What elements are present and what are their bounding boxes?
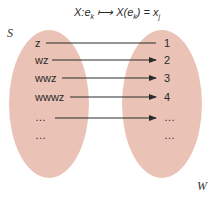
domain-item: wwz [34, 72, 56, 84]
codomain-item: 2 [164, 54, 170, 66]
codomain-item: 4 [164, 91, 170, 103]
domain-item: z [35, 37, 41, 49]
function-mapping-diagram: X:ek ⟼ X(ek) = xj S W z wz wwz wwwz … … … [0, 0, 217, 197]
codomain-item: 1 [164, 37, 170, 49]
codomain-set-label: W [197, 179, 208, 193]
domain-set-label: S [7, 26, 13, 40]
codomain-item: … [164, 111, 175, 123]
domain-item: wz [34, 54, 48, 66]
codomain-set-ellipse [122, 30, 202, 178]
mapping-title: X:ek ⟼ X(ek) = xj [73, 6, 160, 21]
domain-item: wwwz [34, 91, 64, 103]
codomain-item: … [164, 129, 175, 141]
domain-set-ellipse [9, 30, 89, 178]
domain-item: … [35, 129, 46, 141]
codomain-item: 3 [164, 72, 170, 84]
domain-item: … [35, 111, 46, 123]
